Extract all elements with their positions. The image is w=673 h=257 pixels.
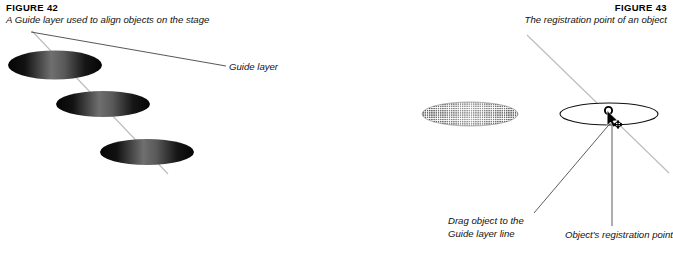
callout-drag-object: Drag object to the Guide layer line [448,215,524,240]
stage-object-ellipse [56,91,150,117]
callout-drag-object-line1: Drag object to the [448,215,524,228]
figure-42-heading: FIGURE 42 A Guide layer used to align ob… [6,2,209,26]
figure-43-label: FIGURE 43 [525,2,667,13]
figure-43-caption: The registration point of an object [525,14,667,25]
callout-guide-layer: Guide layer [229,61,278,74]
left-figure-art [8,31,226,174]
stage-object-ellipse [8,51,102,80]
figure-42-caption: A Guide layer used to align objects on t… [6,14,209,25]
figure-43-heading: FIGURE 43 The registration point of an o… [525,2,667,26]
callout-drag-object-line2: Guide layer line [448,228,524,241]
right-figure-art [422,35,669,226]
leader-line-drag-object [534,120,613,213]
figure-42-label: FIGURE 42 [6,2,209,13]
callout-registration-point: Object's registration point [565,229,673,242]
stage-object-ellipse [100,139,194,165]
